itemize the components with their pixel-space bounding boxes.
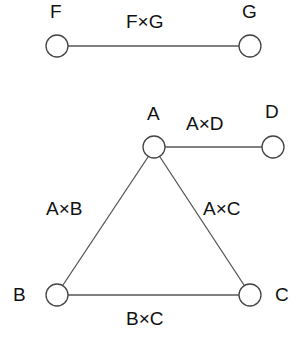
node-label-b: B: [13, 285, 26, 304]
node-label-c: C: [275, 285, 289, 304]
edge-label-f-g: F×G: [126, 12, 163, 31]
node-label-f: F: [50, 2, 62, 21]
edge-label-a-d: A×D: [186, 114, 224, 133]
node-label-d: D: [265, 102, 279, 121]
node-g: [239, 35, 261, 57]
edge-label-a-b: A×B: [46, 199, 82, 218]
node-c: [239, 284, 261, 306]
node-a: [143, 136, 165, 158]
node-label-a: A: [147, 104, 160, 123]
node-d: [262, 136, 284, 158]
node-label-g: G: [242, 2, 257, 21]
edge-label-a-c: A×C: [203, 199, 241, 218]
edge-a-b: [63, 157, 148, 285]
node-f: [46, 35, 68, 57]
edge-label-b-c: B×C: [126, 309, 164, 328]
graph-canvas: [0, 0, 299, 342]
edge-a-c: [160, 157, 244, 285]
node-b: [46, 284, 68, 306]
